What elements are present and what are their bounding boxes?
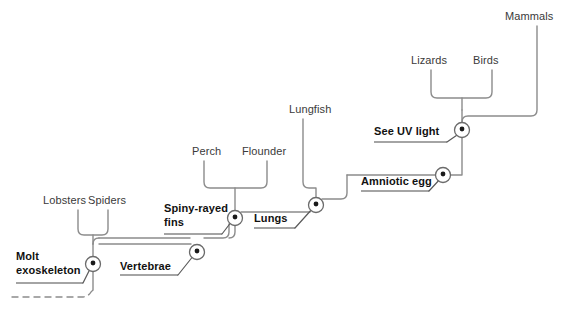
- branch-lungs-to-amniotic-riser: [322, 175, 347, 199]
- node-marker-molt-exoskeleton: [86, 257, 101, 272]
- leader-lungs: [295, 208, 313, 228]
- node-marker-amniotic-egg: [436, 168, 451, 183]
- taxon-label-birds: Birds: [473, 54, 499, 67]
- taxon-label-lobsters: Lobsters: [43, 194, 86, 207]
- trait-label-vertebrae: Vertebrae: [120, 260, 171, 273]
- branch-lungfish: [303, 119, 316, 199]
- taxon-label-perch: Perch: [192, 145, 221, 158]
- trait-label-spiny-rayed-fins-line2: fins: [164, 216, 184, 229]
- cladogram-branch-lines: [0, 0, 568, 318]
- branch-perch-flounder: [204, 161, 267, 188]
- node-marker-see-uv-light: [455, 123, 470, 138]
- taxon-label-lizards: Lizards: [411, 54, 447, 67]
- trait-label-lungs: Lungs: [254, 212, 288, 225]
- trait-label-see-uv-light: See UV light: [374, 125, 439, 138]
- node-marker-spiny-rayed-fins: [228, 211, 243, 226]
- trait-label-amniotic-egg: Amniotic egg: [361, 175, 432, 188]
- trait-label-molt-exoskeleton-line1: Molt: [16, 250, 39, 263]
- branch-corner-molt-up: [93, 238, 99, 244]
- branch-lizards-birds: [431, 70, 492, 98]
- taxon-label-lungfish: Lungfish: [289, 103, 331, 116]
- branch-mammals: [462, 26, 537, 124]
- node-marker-vertebrae: [190, 245, 205, 260]
- branch-lobsters-spiders: [78, 210, 108, 235]
- taxon-label-mammals: Mammals: [505, 10, 553, 23]
- taxon-label-spiders: Spiders: [88, 194, 126, 207]
- node-marker-lungs: [309, 198, 324, 213]
- cladogram-diagram: Lobsters Spiders Perch Flounder Lungfish…: [0, 0, 568, 318]
- trait-label-molt-exoskeleton-line2: exoskeleton: [16, 264, 81, 277]
- branch-vertebrae-to-spiny: [204, 224, 229, 238]
- trait-label-spiny-rayed-fins-line1: Spiny-rayed: [164, 202, 228, 215]
- branch-root-dashed: [12, 290, 93, 297]
- taxon-label-flounder: Flounder: [242, 145, 286, 158]
- branch-amniotic-to-uv: [449, 136, 462, 175]
